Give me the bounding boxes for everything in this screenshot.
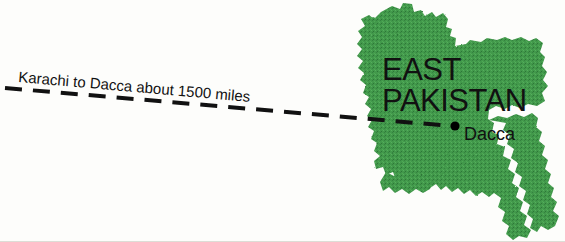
east-pakistan-landmass [357, 3, 559, 240]
country-label-line-1: EAST [382, 52, 462, 87]
country-label-line-2: PAKISTAN [382, 83, 527, 118]
map-canvas: EAST PAKISTAN Dacca Karachi to Dacca abo… [0, 0, 565, 242]
dacca-city-marker [450, 121, 459, 130]
route-distance-label: Karachi to Dacca about 1500 miles [18, 68, 251, 105]
dacca-city-label: Dacca [464, 124, 516, 144]
map-figure: EAST PAKISTAN Dacca Karachi to Dacca abo… [0, 0, 565, 242]
